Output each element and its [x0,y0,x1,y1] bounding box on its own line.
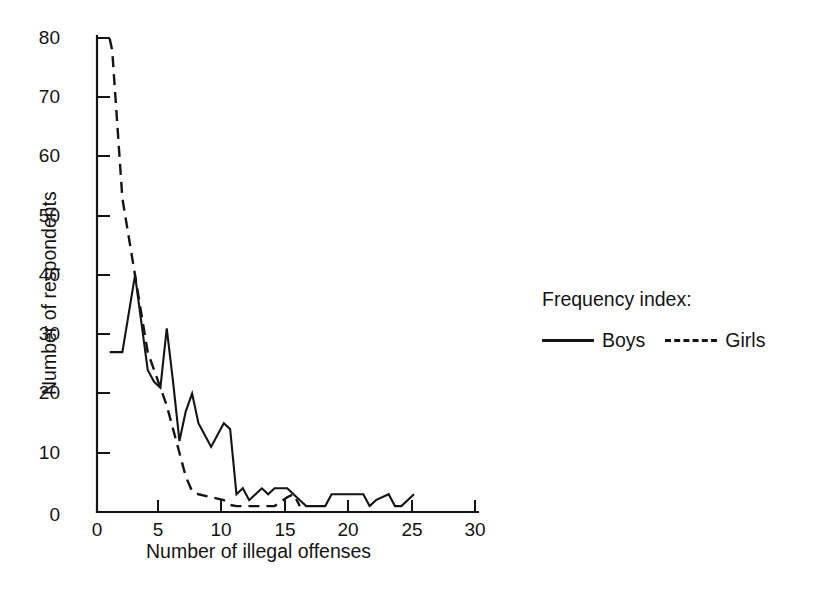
x-tick-label-20: 20 [328,520,368,539]
legend-label-boys: Boys [602,329,645,352]
y-tick-label-10: 10 [20,443,60,462]
x-tick-label-25: 25 [392,520,432,539]
x-tick-label-5: 5 [138,520,178,539]
y-tick-label-80: 80 [20,28,60,47]
y-axis-title: Number of respondents [38,191,61,395]
x-tick-label-10: 10 [201,520,241,539]
legend-label-girls: Girls [725,329,765,352]
figure-root: 80 70 60 50 40 30 20 10 0 0 5 10 15 20 2… [0,0,819,594]
legend-swatch-dashed-line-icon [665,339,717,342]
legend-title: Frequency index: [542,288,819,311]
x-axis-title: Number of illegal offenses [146,540,371,563]
y-axis-ticks [97,38,110,453]
y-tick-label-60: 60 [20,146,60,165]
x-tick-label-15: 15 [265,520,305,539]
y-tick-label-0: 0 [20,505,60,524]
chart-legend: Frequency index: Boys Girls [534,288,819,352]
legend-entry-boys: Boys [542,329,645,352]
y-tick-label-70: 70 [20,87,60,106]
x-tick-label-30: 30 [455,520,495,539]
chart-plot-area: 80 70 60 50 40 30 20 10 0 0 5 10 15 20 2… [0,0,500,594]
legend-entry-list: Boys Girls [542,329,819,352]
legend-swatch-solid-line-icon [542,339,594,342]
series-line-boys [110,275,414,506]
x-tick-label-0: 0 [77,520,117,539]
legend-entry-girls: Girls [665,329,765,352]
chart-svg [0,0,500,594]
